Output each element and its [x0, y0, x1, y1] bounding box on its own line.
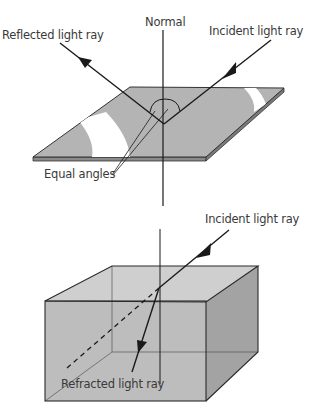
optics-diagram [0, 0, 311, 415]
mirror-plate [33, 87, 284, 161]
incident-arrowhead-icon [196, 243, 211, 258]
refracted-ray-label: Refracted light ray [61, 377, 164, 391]
reflected-ray-label: Reflected light ray [2, 28, 104, 42]
incident-ray-label-reflection: Incident light ray [209, 24, 303, 38]
incident-arrowhead-icon [222, 62, 236, 79]
incident-ray-label-refraction: Incident light ray [205, 212, 299, 226]
equal-angles-label: Equal angles [44, 167, 115, 181]
normal-label: Normal [145, 15, 185, 29]
